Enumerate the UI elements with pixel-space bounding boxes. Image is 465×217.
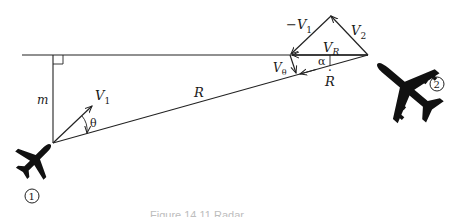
figure-caption: Figure 14.11 Radar... [150, 209, 253, 217]
label-m: m [37, 93, 48, 107]
vtheta-vector [290, 55, 296, 73]
aircraft-2-number: 2 [434, 79, 440, 90]
label-neg-v1: −V1 [286, 17, 312, 35]
label-vr: VR [323, 40, 339, 57]
aircraft-1-icon [7, 130, 64, 187]
label-v1: V1 [95, 88, 110, 106]
aircraft-2-icon [357, 39, 456, 137]
label-r: R [193, 85, 204, 100]
aircraft-1-number: 1 [29, 191, 35, 202]
label-alpha: α [318, 55, 326, 68]
label-theta: θ [90, 117, 97, 130]
right-angle-mark [53, 55, 63, 64]
label-vtheta: Vθ [273, 61, 287, 77]
range-arrow [300, 70, 316, 75]
label-v2: V2 [351, 23, 366, 41]
relative-velocity-diagram: m V1 θ R −V1 V2 VR Vθ α · R 1 2 [0, 0, 465, 217]
label-rdot: R [324, 74, 335, 89]
theta-arc [82, 116, 87, 133]
